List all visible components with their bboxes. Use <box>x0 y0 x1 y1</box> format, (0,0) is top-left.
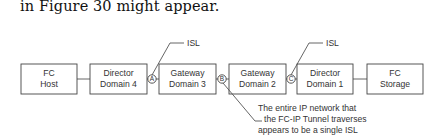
svg-text:FC: FC <box>389 68 400 78</box>
isl-label-a: ISL <box>187 38 200 48</box>
note-line-3: appears to be a single ISL <box>258 125 358 135</box>
fabric-diagram: FC Host Director Domain 4 Gateway Domain… <box>0 0 427 136</box>
svg-text:Domain 3: Domain 3 <box>169 79 206 89</box>
node-director-domain-4: Director Domain 4 <box>90 64 147 94</box>
isl-label-c: ISL <box>326 38 339 48</box>
svg-text:Domain 4: Domain 4 <box>100 79 137 89</box>
node-director-domain-1: Director Domain 1 <box>297 64 353 94</box>
node-gateway-domain-3: Gateway Domain 3 <box>159 64 216 94</box>
svg-text:Gateway: Gateway <box>171 68 206 78</box>
note-line-1: The entire IP network that <box>258 103 357 113</box>
svg-text:Director: Director <box>103 68 133 78</box>
point-a: A <box>148 75 156 83</box>
node-gateway-domain-2: Gateway Domain 2 <box>229 64 286 94</box>
note-line-2: the FC-IP Tunnel traverses <box>264 114 367 124</box>
node-fc-storage: FC Storage <box>367 64 423 94</box>
svg-text:Host: Host <box>40 79 58 89</box>
svg-text:C: C <box>289 75 294 82</box>
svg-text:A: A <box>150 75 155 82</box>
svg-text:Domain 1: Domain 1 <box>307 79 344 89</box>
node-fc-host: FC Host <box>21 64 77 94</box>
svg-text:FC: FC <box>43 68 54 78</box>
svg-text:B: B <box>220 75 224 82</box>
point-c: C <box>287 75 295 83</box>
svg-text:Gateway: Gateway <box>241 68 276 78</box>
svg-text:Storage: Storage <box>380 79 410 89</box>
point-b: B <box>218 75 226 83</box>
svg-text:Domain 2: Domain 2 <box>239 79 276 89</box>
svg-text:Director: Director <box>310 68 340 78</box>
